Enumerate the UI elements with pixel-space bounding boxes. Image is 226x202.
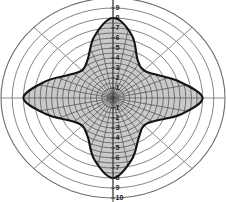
radial-tick-label-down-7: 7 [116,163,120,172]
radial-tick-label-up-3: 3 [116,63,120,72]
radial-tick-label-up-8: 8 [116,13,120,22]
radial-tick-label-up-7: 7 [116,23,120,32]
polar-chart-figure: 12345678910 12345678910 [0,0,226,202]
radial-tick-label-down-8: 8 [116,173,120,182]
radial-tick-label-up-9: 9 [116,3,120,12]
radial-tick-label-down-6: 6 [116,153,120,162]
radial-tick-label-up-5: 5 [116,43,120,52]
radial-tick-label-up-4: 4 [116,53,120,62]
radial-tick-label-down-3: 3 [116,123,120,132]
radial-tick-label-up-2: 2 [116,73,120,82]
radial-tick-label-down-10: 10 [116,193,124,202]
radial-tick-label-down-1: 1 [116,103,120,112]
radial-tick-label-up-6: 6 [116,33,120,42]
radial-tick-label-down-9: 9 [116,183,120,192]
radial-tick-label-down-2: 2 [116,113,120,122]
polar-plot-svg: 12345678910 12345678910 [0,0,226,202]
radial-tick-label-down-5: 5 [116,143,120,152]
radial-tick-label-down-4: 4 [116,133,120,142]
radial-tick-label-up-10: 10 [116,0,124,2]
radial-tick-label-up-1: 1 [116,83,120,92]
